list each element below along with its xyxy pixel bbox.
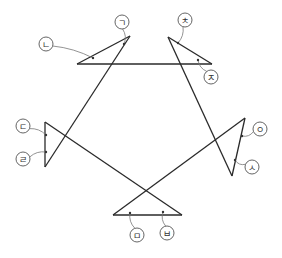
angle-label-rieul: ㄹ [16,152,30,166]
svg-text:ㄹ: ㄹ [19,155,27,165]
svg-text:ㅅ: ㅅ [248,163,256,173]
leader-line [242,132,254,137]
svg-text:ㅇ: ㅇ [256,125,264,135]
angle-label-giyeok: ㄱ [115,15,129,29]
geometry-diagram: ㄱㄴㅊㅈㄷㄹㅇㅅㅁㅂ [0,0,282,258]
angle-label-ieung: ㅇ [253,122,267,136]
svg-text:ㅂ: ㅂ [163,229,171,239]
figure-line [168,37,232,176]
svg-text:ㅈ: ㅈ [207,73,215,83]
svg-text:ㅁ: ㅁ [133,231,141,241]
svg-text:ㄱ: ㄱ [118,18,126,28]
angle-label-mieum: ㅁ [130,228,144,242]
angle-label-nieun: ㄴ [39,37,53,51]
leader-line [198,60,207,71]
leader-line [178,27,183,43]
angle-label-chieut: ㅊ [178,13,192,27]
figure-line [113,118,245,215]
leader-line [53,46,93,58]
leader-line [162,212,166,226]
angle-label-bieup: ㅂ [160,226,174,240]
figure-line [45,122,182,215]
figure-lines [45,36,245,215]
leader-line [30,129,47,135]
angle-label-siot: ㅅ [245,160,259,174]
svg-text:ㄷ: ㄷ [19,122,27,132]
leader-line [123,29,126,44]
label-leader-lines [30,27,254,229]
leader-line [30,152,46,157]
angle-label-digeut: ㄷ [16,119,30,133]
svg-text:ㄴ: ㄴ [42,40,50,50]
angle-label-jieut: ㅈ [204,70,218,84]
figure-line [77,36,130,64]
leader-line [235,160,246,165]
svg-text:ㅊ: ㅊ [181,16,189,26]
